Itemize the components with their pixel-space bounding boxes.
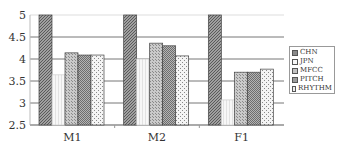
x-category-label: F1 xyxy=(234,131,249,144)
bar-jpn-f1 xyxy=(221,100,234,125)
x-category-label: M2 xyxy=(148,131,166,144)
bars xyxy=(39,15,273,125)
legend-label: CHN xyxy=(300,48,318,57)
legend-swatch-icon xyxy=(292,59,298,65)
bar-rhythm-m1 xyxy=(91,55,104,125)
legend-label: PITCH xyxy=(300,75,324,84)
bar-mfcc-f1 xyxy=(234,72,247,125)
y-tick-label: 4 xyxy=(19,53,26,66)
legend-item-mfcc: MFCC xyxy=(292,66,332,75)
bar-jpn-m1 xyxy=(52,75,65,125)
legend: CHNJPNMFCCPITCHRHYTHM xyxy=(289,46,335,94)
legend-item-pitch: PITCH xyxy=(292,75,332,84)
legend-swatch-icon xyxy=(292,77,298,83)
legend-item-chn: CHN xyxy=(292,48,332,57)
y-tick-label: 2.5 xyxy=(9,119,27,132)
legend-swatch-icon xyxy=(292,68,298,74)
y-tick-label: 5 xyxy=(19,9,26,22)
legend-item-rhythm: RHYTHM xyxy=(292,84,332,93)
bar-chn-m1 xyxy=(39,15,52,125)
legend-label: MFCC xyxy=(300,66,323,75)
x-category-label: M1 xyxy=(63,131,81,144)
legend-item-jpn: JPN xyxy=(292,57,332,66)
legend-swatch-icon xyxy=(292,86,296,92)
bar-pitch-m1 xyxy=(78,55,91,125)
x-axis: M1M2F1 xyxy=(63,125,249,144)
y-tick-label: 4.5 xyxy=(9,31,27,44)
bar-rhythm-m2 xyxy=(176,56,189,125)
bar-rhythm-f1 xyxy=(260,69,273,125)
bar-chn-m2 xyxy=(124,15,137,125)
bar-mfcc-m1 xyxy=(65,53,78,125)
y-tick-label: 3 xyxy=(19,97,26,110)
bar-pitch-m2 xyxy=(163,46,176,125)
legend-swatch-icon xyxy=(292,50,298,56)
legend-label: RHYTHM xyxy=(298,84,332,93)
legend-label: JPN xyxy=(300,57,314,66)
bar-mfcc-m2 xyxy=(150,43,163,125)
bar-pitch-f1 xyxy=(247,72,260,125)
bar-chn-f1 xyxy=(208,15,221,125)
y-tick-label: 3.5 xyxy=(9,75,27,88)
bar-jpn-m2 xyxy=(137,59,150,125)
